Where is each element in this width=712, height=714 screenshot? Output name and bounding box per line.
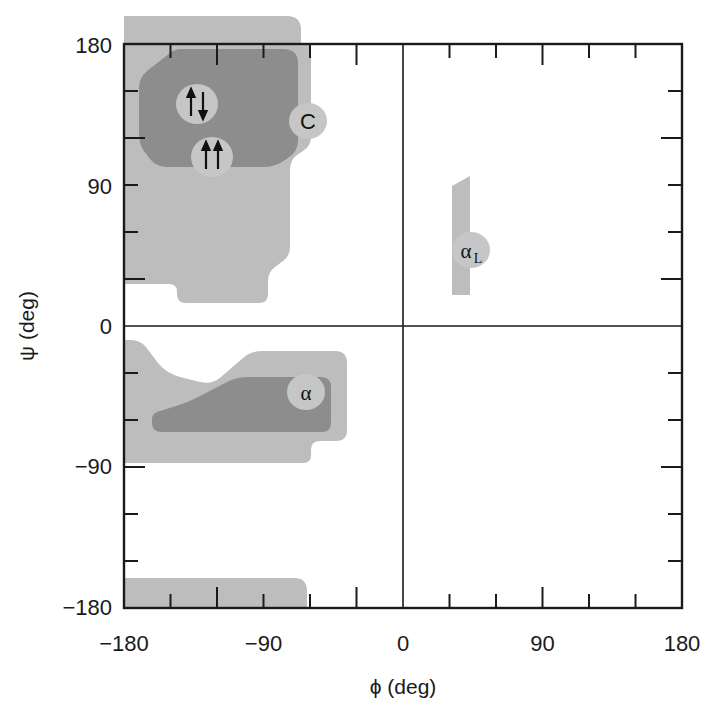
annotation-label-alpha-L: α bbox=[460, 239, 471, 263]
region-bottom-strip bbox=[124, 578, 307, 608]
xtick-label-0: −180 bbox=[99, 631, 149, 656]
xtick-label-2: 0 bbox=[397, 631, 409, 656]
ramachandran-plot: −180 −90 0 90 180 −180 −90 0 90 180 ϕ (d… bbox=[0, 0, 712, 714]
annotation-label-alpha: α bbox=[300, 381, 311, 405]
ytick-label-0: −180 bbox=[62, 595, 112, 620]
xtick-label-4: 180 bbox=[664, 631, 701, 656]
y-axis-label: ψ (deg) bbox=[15, 291, 38, 361]
x-axis-label: ϕ (deg) bbox=[370, 675, 437, 698]
ytick-label-1: −90 bbox=[75, 454, 112, 479]
annotation-label-collagen: C bbox=[300, 109, 316, 134]
annotation-bubble bbox=[191, 137, 233, 177]
annotation-alpha-helix: α bbox=[287, 374, 325, 410]
ramachandran-chart-svg: −180 −90 0 90 180 −180 −90 0 90 180 ϕ (d… bbox=[0, 0, 712, 714]
ytick-label-2: 0 bbox=[100, 314, 112, 339]
annotation-bubble bbox=[176, 84, 218, 124]
annotation-antiparallel-sheet bbox=[176, 84, 218, 124]
annotation-label-alpha-L-subscript: L bbox=[474, 251, 483, 266]
annotation-collagen-helix: C bbox=[289, 103, 327, 139]
ytick-label-4: 180 bbox=[75, 33, 112, 58]
annotation-left-handed-alpha-helix: α L bbox=[452, 232, 490, 268]
annotation-parallel-sheet bbox=[191, 137, 233, 177]
ytick-label-3: 90 bbox=[88, 174, 112, 199]
xtick-label-1: −90 bbox=[245, 631, 282, 656]
xtick-label-3: 90 bbox=[530, 631, 554, 656]
